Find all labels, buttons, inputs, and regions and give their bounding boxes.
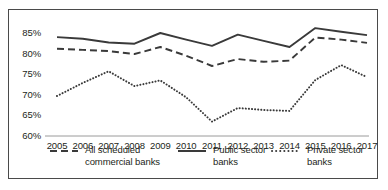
legend-label-2: Public sector banks [213, 144, 266, 167]
legend-label-1: All scheduled commercial banks [85, 144, 160, 167]
legend-label-3: Private sector banks [307, 144, 364, 167]
series-line-dotted [57, 65, 367, 122]
chart-figure: 85%80%75%70%65%60% 200520062007200820092… [8, 9, 378, 179]
legend-item-3[interactable]: Private sector banks [271, 144, 364, 167]
legend-item-1[interactable]: All scheduled commercial banks [49, 144, 160, 167]
chart-legend: All scheduled commercial banksPublic sec… [9, 138, 377, 174]
legend-swatch-dashed-icon [49, 145, 79, 157]
legend-item-2[interactable]: Public sector banks [177, 144, 266, 167]
legend-swatch-solid-icon [177, 145, 207, 157]
series-paths [57, 28, 367, 122]
legend-swatch-dotted-icon [271, 145, 301, 157]
plot-area: 85%80%75%70%65%60% 200520062007200820092… [9, 10, 377, 178]
